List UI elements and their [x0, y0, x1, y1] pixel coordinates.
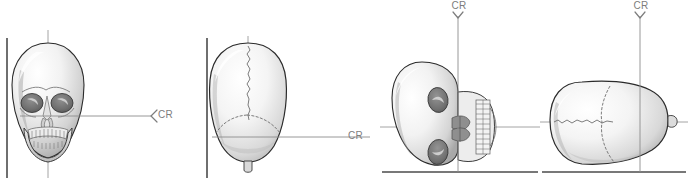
panel-rotated-vertex-skull-view: CR	[540, 0, 688, 183]
cranium-vertex-outline	[550, 81, 668, 164]
cr-arrowhead-icon	[453, 12, 463, 18]
occipital-protuberance	[244, 161, 252, 172]
cr-label-panel-3: CR	[447, 1, 471, 11]
cr-arrowhead-icon	[635, 12, 645, 18]
panel-vertex-skull-view: CR	[180, 0, 370, 183]
skull-positioning-figure: CR	[0, 0, 688, 183]
occipital-protuberance	[668, 115, 677, 127]
cr-label-panel-2: CR	[348, 131, 363, 141]
orbit-left	[51, 94, 73, 113]
cr-label-panel-1: CR	[158, 110, 173, 120]
panel-rotated-anterior-skull-view: CR	[380, 0, 540, 183]
panel-anterior-skull-view: CR	[0, 0, 180, 183]
cr-label-panel-4: CR	[629, 1, 653, 11]
orbit-right	[21, 94, 43, 113]
